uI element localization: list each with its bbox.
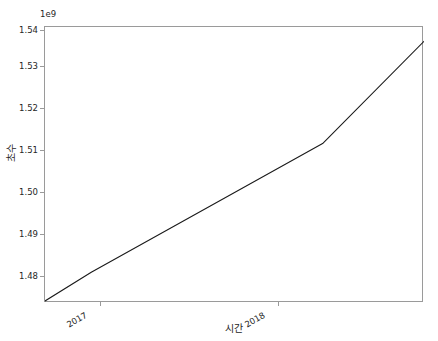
y-axis-title: 초수	[3, 133, 18, 173]
y-tick-label: 1.49	[4, 229, 38, 239]
y-tick-label: 1.48	[4, 271, 38, 281]
matplotlib-figure: 1e9 1.54 1.53 1.52 1.51 1.50 1.49 1.48 2…	[0, 0, 438, 341]
y-tick-label: 1.50	[4, 187, 38, 197]
y-tick-label: 1.54	[4, 25, 38, 35]
y-axis-offset-label: 1e9	[40, 9, 56, 19]
x-axis-title: 시간	[0, 320, 438, 335]
plot-area	[44, 26, 423, 302]
line-series-svg	[45, 27, 424, 303]
y-tick-label: 1.52	[4, 103, 38, 113]
data-line-chosu	[45, 41, 424, 301]
y-tick-label: 1.53	[4, 61, 38, 71]
x-axis-title-text: 시간	[225, 320, 243, 335]
